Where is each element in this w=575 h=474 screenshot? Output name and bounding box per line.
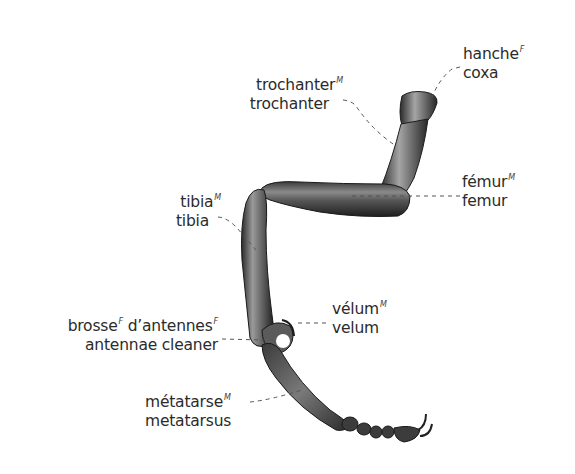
label-metatarsus-en: metatarsus bbox=[145, 412, 231, 431]
label-tibia-en: tibia bbox=[176, 212, 209, 231]
label-velum-fr: vélumM bbox=[332, 295, 387, 319]
leader-coxa bbox=[432, 67, 460, 97]
label-velum-en: velum bbox=[332, 319, 387, 338]
label-trochanter: trochanterM trochanter bbox=[250, 71, 343, 114]
label-metatarsus: métatarseM metatarsus bbox=[145, 388, 231, 431]
label-antennae-cleaner-fr: brosseF d’antennesF bbox=[68, 312, 218, 336]
tibia-segment bbox=[242, 189, 274, 346]
label-coxa-fr: hancheF bbox=[463, 40, 524, 64]
label-femur: fémurM femur bbox=[462, 168, 515, 211]
label-antennae-cleaner: brosseF d’antennesF antennae cleaner bbox=[68, 312, 218, 355]
label-tibia: tibiaM tibia bbox=[176, 188, 221, 231]
label-antennae-cleaner-en: antennae cleaner bbox=[68, 336, 218, 355]
label-coxa: hancheF coxa bbox=[463, 40, 524, 83]
label-femur-en: femur bbox=[462, 192, 515, 211]
label-metatarsus-fr: métatarseM bbox=[145, 388, 231, 412]
femur-segment bbox=[261, 182, 410, 217]
label-velum: vélumM velum bbox=[332, 295, 387, 338]
leader-trochanter bbox=[343, 100, 396, 146]
label-tibia-fr: tibiaM bbox=[176, 188, 221, 212]
metatarsus-segment bbox=[262, 343, 350, 430]
label-femur-fr: fémurM bbox=[462, 168, 515, 192]
label-coxa-en: coxa bbox=[463, 64, 524, 83]
diagram-stage: hancheF coxa trochanterM trochanter fému… bbox=[0, 0, 575, 474]
label-trochanter-fr: trochanterM bbox=[250, 71, 343, 95]
label-trochanter-en: trochanter bbox=[250, 95, 329, 114]
tarsal-claws bbox=[418, 414, 432, 436]
tarsus-segments bbox=[342, 417, 420, 442]
